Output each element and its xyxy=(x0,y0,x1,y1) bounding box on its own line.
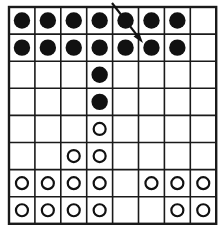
open-circle xyxy=(171,204,183,216)
open-circle xyxy=(68,204,80,216)
open-circle xyxy=(16,204,28,216)
open-circle xyxy=(171,177,183,189)
open-circle xyxy=(42,177,54,189)
open-circle xyxy=(145,177,157,189)
filled-dot xyxy=(14,39,30,55)
filled-dot xyxy=(143,12,159,28)
filled-dot xyxy=(91,94,107,110)
figure-canvas xyxy=(0,0,224,231)
dot-grid-diagram xyxy=(0,0,224,231)
filled-dot xyxy=(169,39,185,55)
open-circle xyxy=(197,177,209,189)
open-circle xyxy=(197,204,209,216)
filled-dot xyxy=(91,12,107,28)
open-circle xyxy=(94,177,106,189)
filled-dot xyxy=(66,39,82,55)
filled-dot xyxy=(91,67,107,83)
filled-dot xyxy=(40,12,56,28)
open-circle xyxy=(94,123,106,135)
filled-dot xyxy=(91,39,107,55)
open-circle xyxy=(42,204,54,216)
open-circle xyxy=(68,150,80,162)
filled-dot xyxy=(66,12,82,28)
filled-dot xyxy=(40,39,56,55)
open-circle xyxy=(94,150,106,162)
grid-lines xyxy=(9,7,216,224)
open-circle xyxy=(94,204,106,216)
open-circle xyxy=(68,177,80,189)
filled-dot xyxy=(143,39,159,55)
filled-dot xyxy=(117,39,133,55)
filled-dot xyxy=(169,12,185,28)
filled-dot xyxy=(14,12,30,28)
open-circle xyxy=(16,177,28,189)
grid-svg xyxy=(0,0,224,231)
